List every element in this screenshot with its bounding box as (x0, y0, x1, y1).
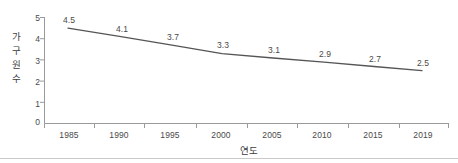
data-point-label-1995: 3.7 (161, 32, 185, 42)
x-tick-label-2000: 2000 (201, 130, 241, 140)
data-point-label-2019: 2.5 (411, 58, 435, 68)
x-tick-label-1990: 1990 (99, 130, 139, 140)
x-tick-label-2005: 2005 (252, 130, 292, 140)
data-line-series-1 (68, 28, 422, 70)
data-point-label-2000: 3.3 (211, 40, 235, 50)
data-point-label-1985: 4.5 (57, 15, 81, 25)
chart-figure: 가 구 원 수 5 4 3 2 1 0 1985 1990 1995 2000 … (0, 0, 458, 163)
x-tick-label-2015: 2015 (353, 130, 393, 140)
data-point-label-1990: 4.1 (110, 24, 134, 34)
data-point-label-2005: 3.1 (262, 45, 286, 55)
data-point-label-2010: 2.9 (313, 49, 337, 59)
x-tick-label-1995: 1995 (150, 130, 190, 140)
x-tick-label-2019: 2019 (403, 130, 443, 140)
x-axis-title: 연도 (209, 143, 289, 157)
data-point-label-2015: 2.7 (363, 54, 387, 64)
x-tick-label-1985: 1985 (49, 130, 89, 140)
bottom-divider (0, 158, 458, 159)
x-tick-label-2010: 2010 (302, 130, 342, 140)
